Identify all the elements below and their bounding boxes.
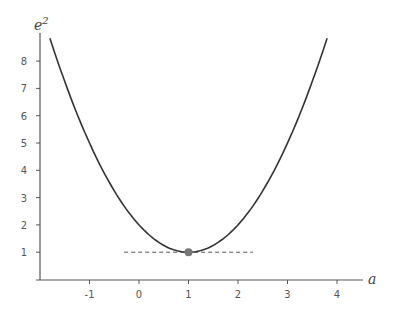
x-ticks: -101234 xyxy=(85,280,341,301)
y-tick-label: 2 xyxy=(21,219,27,232)
x-axis-label: a xyxy=(368,271,376,287)
y-tick-label: 5 xyxy=(21,137,27,150)
y-ticks: 12345678 xyxy=(21,55,40,259)
y-tick-label: 8 xyxy=(21,55,27,68)
chart: 12345678 -101234 e2 a xyxy=(0,0,395,319)
y-tick-label: 1 xyxy=(21,246,27,259)
y-tick-label: 6 xyxy=(21,110,27,123)
minimum-point xyxy=(185,248,193,256)
y-tick-label: 4 xyxy=(21,164,27,177)
x-tick-label: 0 xyxy=(136,288,142,301)
y-tick-label: 7 xyxy=(21,82,27,95)
x-tick-label: 4 xyxy=(334,288,340,301)
x-tick-label: 2 xyxy=(235,288,241,301)
parabola-curve xyxy=(50,38,327,252)
y-tick-label: 3 xyxy=(21,192,27,205)
x-tick-label: 3 xyxy=(284,288,290,301)
x-tick-label: -1 xyxy=(85,288,95,301)
y-axis-label: e2 xyxy=(34,15,49,33)
x-tick-label: 1 xyxy=(185,288,191,301)
axes xyxy=(36,33,363,280)
